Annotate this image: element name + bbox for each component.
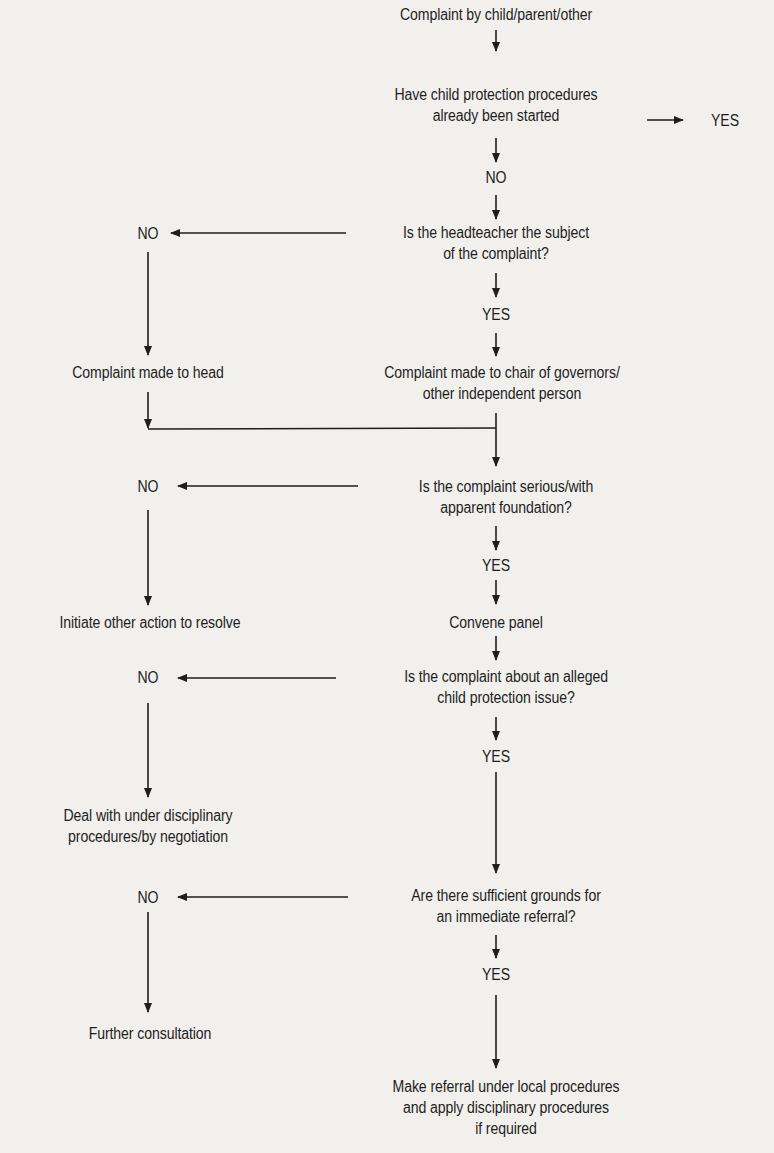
node-cp-issue-no: NO xyxy=(138,667,159,688)
node-serious-yes: YES xyxy=(482,555,510,576)
merge-line xyxy=(148,428,496,429)
flowchart-canvas: Complaint by child/parent/other Have chi… xyxy=(0,0,774,1153)
node-text: apparent foundation? xyxy=(419,497,593,518)
node-text: Convene panel xyxy=(449,612,543,633)
label-no: NO xyxy=(138,667,159,688)
node-question-cp-issue: Is the complaint about an alleged child … xyxy=(404,666,608,708)
node-text: Initiate other action to resolve xyxy=(59,612,240,633)
node-text: already been started xyxy=(394,105,597,126)
connector-layer xyxy=(0,0,774,1153)
node-other-action: Initiate other action to resolve xyxy=(59,612,240,633)
node-text: Complaint made to chair of governors/ xyxy=(384,362,619,383)
label-yes: YES xyxy=(711,110,739,131)
label-no: NO xyxy=(138,887,159,908)
node-cp-issue-yes: YES xyxy=(482,746,510,767)
node-complaint-to-chair: Complaint made to chair of governors/ ot… xyxy=(384,362,619,404)
node-text: and apply disciplinary procedures xyxy=(393,1097,620,1118)
node-text: an immediate referral? xyxy=(411,906,600,927)
node-text: Have child protection procedures xyxy=(394,84,597,105)
label-yes: YES xyxy=(482,746,510,767)
node-text: Make referral under local procedures xyxy=(393,1076,620,1097)
node-disciplinary: Deal with under disciplinary procedures/… xyxy=(64,805,233,847)
label-no: NO xyxy=(138,476,159,497)
label-no: NO xyxy=(138,223,159,244)
node-complaint-start: Complaint by child/parent/other xyxy=(400,4,592,25)
label-yes: YES xyxy=(482,304,510,325)
node-text: Deal with under disciplinary xyxy=(64,805,233,826)
node-question-head-subject: Is the headteacher the subject of the co… xyxy=(403,222,589,264)
node-question-grounds: Are there sufficient grounds for an imme… xyxy=(411,885,600,927)
node-text: Is the complaint serious/with xyxy=(419,476,593,497)
node-cp-started-yes: YES xyxy=(711,110,739,131)
node-text: other independent person xyxy=(384,383,619,404)
node-make-referral: Make referral under local procedures and… xyxy=(393,1076,620,1139)
node-question-serious: Is the complaint serious/with apparent f… xyxy=(419,476,593,518)
node-text: Is the complaint about an alleged xyxy=(404,666,608,687)
node-cp-started-no: NO xyxy=(486,167,507,188)
node-text: Is the headteacher the subject xyxy=(403,222,589,243)
node-text: Complaint made to head xyxy=(72,362,223,383)
label-no: NO xyxy=(486,167,507,188)
node-text: Complaint by child/parent/other xyxy=(400,4,592,25)
label-yes: YES xyxy=(482,555,510,576)
node-convene-panel: Convene panel xyxy=(449,612,543,633)
node-further-consultation: Further consultation xyxy=(89,1023,212,1044)
node-question-cp-started: Have child protection procedures already… xyxy=(394,84,597,126)
node-text: Further consultation xyxy=(89,1023,212,1044)
node-serious-no: NO xyxy=(138,476,159,497)
node-grounds-yes: YES xyxy=(482,964,510,985)
node-text: if required xyxy=(393,1118,620,1139)
node-grounds-no: NO xyxy=(138,887,159,908)
node-text: procedures/by negotiation xyxy=(64,826,233,847)
node-text: child protection issue? xyxy=(404,687,608,708)
node-head-subject-no: NO xyxy=(138,223,159,244)
node-text: of the complaint? xyxy=(403,243,589,264)
node-complaint-to-head: Complaint made to head xyxy=(72,362,223,383)
node-head-subject-yes: YES xyxy=(482,304,510,325)
node-text: Are there sufficient grounds for xyxy=(411,885,600,906)
label-yes: YES xyxy=(482,964,510,985)
